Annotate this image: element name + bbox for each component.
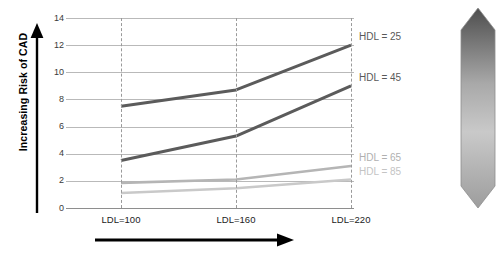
series-label: HDL = 45	[359, 72, 401, 83]
x-tick-label: LDL=100	[102, 214, 141, 225]
chart-figure: Increasing Risk of CAD 02468101214 HDL =…	[0, 0, 503, 265]
right-arrow-icon	[95, 232, 295, 248]
y-tick-label: 8	[44, 95, 64, 104]
series-label: HDL = 85	[359, 166, 401, 177]
series-lines	[66, 18, 354, 208]
gradient-double-arrow-icon	[458, 8, 498, 208]
y-tick-label: 14	[44, 14, 64, 23]
gridline	[66, 208, 354, 209]
up-arrow-icon	[30, 22, 44, 214]
x-tick-label: LDL=220	[332, 214, 371, 225]
y-axis-ticks: 02468101214	[44, 18, 64, 208]
vertical-gridline	[351, 18, 352, 208]
y-tick-label: 12	[44, 41, 64, 50]
vertical-gridline	[236, 18, 237, 208]
y-tick-label: 2	[44, 176, 64, 185]
y-axis-title: Increasing Risk of CAD	[17, 17, 29, 167]
y-tick-label: 6	[44, 122, 64, 131]
y-tick-label: 4	[44, 149, 64, 158]
vertical-gridline	[121, 18, 122, 208]
x-tick-label: LDL=160	[217, 214, 256, 225]
y-tick-label: 10	[44, 68, 64, 77]
y-tick-label: 0	[44, 204, 64, 213]
y-axis-title-block: Increasing Risk of CAD	[0, 8, 46, 213]
plot-area	[66, 18, 354, 208]
series-label: HDL = 25	[359, 31, 401, 42]
series-label: HDL = 65	[359, 152, 401, 163]
